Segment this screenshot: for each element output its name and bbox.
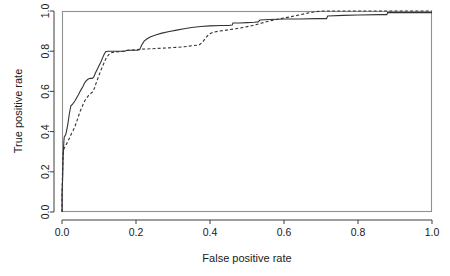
roc-chart: 0.00.20.40.60.81.0 0.00.20.40.60.81.0 Fa… xyxy=(0,0,450,276)
y-tick-label: 0.0 xyxy=(39,205,51,220)
x-axis-title: False positive rate xyxy=(202,252,291,264)
y-tick-label: 0.2 xyxy=(39,164,51,179)
x-tick-label: 1.0 xyxy=(425,226,440,238)
y-tick-label: 0.8 xyxy=(39,44,51,59)
x-tick-label: 0.6 xyxy=(277,226,292,238)
x-tick-label: 0.2 xyxy=(129,226,144,238)
y-axis-title: True positive rate xyxy=(12,69,24,154)
x-tick-label: 0.8 xyxy=(351,226,366,238)
x-tick-label: 0.4 xyxy=(203,226,218,238)
x-tick-label: 0.0 xyxy=(55,226,70,238)
y-tick-label: 0.4 xyxy=(39,124,51,139)
y-tick-label: 1.0 xyxy=(39,4,51,19)
roc-plot-svg: 0.00.20.40.60.81.0 0.00.20.40.60.81.0 Fa… xyxy=(0,0,450,276)
y-tick-label: 0.6 xyxy=(39,84,51,99)
